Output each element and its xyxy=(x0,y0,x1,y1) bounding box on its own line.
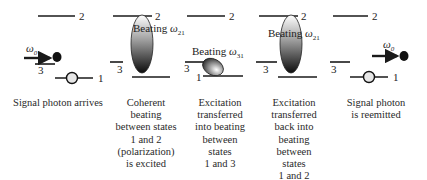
caption-coherent-beating: Coherent beating between states 1 and 2 … xyxy=(110,97,182,170)
level-3-label: 3 xyxy=(263,63,269,75)
panel-photon-reemitted: 2 ω0 3 1 xyxy=(330,10,409,83)
caption-line: states xyxy=(188,146,252,158)
coherence-ellipse-icon xyxy=(280,15,302,73)
photon-dot-icon xyxy=(400,51,409,61)
panel-transfer-back-12: 2 Beating ω21 3 xyxy=(256,10,320,77)
caption-line: is reemitted xyxy=(336,109,416,121)
beating-label: Beating ω31 xyxy=(192,45,244,60)
level-1-label: 1 xyxy=(196,71,202,83)
panel-photon-arrives: 2 ω0 3 1 xyxy=(24,10,104,84)
caption-line: between states xyxy=(110,121,182,133)
photon-frequency-label: ω0 xyxy=(383,38,395,53)
caption-line: 1 and 2 xyxy=(262,170,326,180)
panel-transfer-13: 2 Beating ω31 3 1 xyxy=(184,10,244,83)
level-3-label: 3 xyxy=(331,63,337,75)
caption-line: Excitation xyxy=(262,97,326,109)
caption-line: transferred xyxy=(262,109,326,121)
caption-transfer-back-12: Excitation transferred back into beating… xyxy=(262,97,326,180)
caption-line: is excited xyxy=(110,158,182,170)
caption-line: beating xyxy=(262,134,326,146)
caption-line: between xyxy=(188,134,252,146)
panel-coherent-beating: 2 Beating ω21 3 xyxy=(110,10,185,77)
level-3-label: 3 xyxy=(38,64,44,76)
caption-line: Signal photon arrives xyxy=(6,97,110,109)
caption-line: states xyxy=(262,158,326,170)
caption-line: 1 and 2 xyxy=(110,134,182,146)
level-3-label: 3 xyxy=(184,62,190,74)
level-2-label: 2 xyxy=(79,10,85,22)
caption-line: Excitation xyxy=(188,97,252,109)
level-2-label: 2 xyxy=(155,10,161,22)
level-2-label: 2 xyxy=(229,10,235,22)
caption-photon-arrives: Signal photon arrives xyxy=(6,97,110,109)
caption-photon-reemitted: Signal photon is reemitted xyxy=(336,97,416,121)
caption-line: into beating xyxy=(188,121,252,133)
level-2-label: 2 xyxy=(301,10,307,22)
caption-line: Signal photon xyxy=(336,97,416,109)
caption-line: transferred xyxy=(188,109,252,121)
level-2-label: 2 xyxy=(372,10,378,22)
caption-line: (polarization) xyxy=(110,146,182,158)
caption-line: Coherent xyxy=(110,97,182,109)
caption-line: between xyxy=(262,146,326,158)
caption-transfer-13: Excitation transferred into beating betw… xyxy=(188,97,252,170)
level-1-label: 1 xyxy=(98,72,104,84)
caption-line: 1 and 3 xyxy=(188,158,252,170)
caption-line: back into xyxy=(262,121,326,133)
level-3-label: 3 xyxy=(117,63,123,75)
ground-state-atom-icon xyxy=(67,73,78,84)
photon-frequency-label: ω0 xyxy=(26,42,38,57)
photon-dot-icon xyxy=(53,52,62,62)
level-1-label: 1 xyxy=(393,71,399,83)
ground-state-atom-icon xyxy=(364,72,375,83)
caption-line: beating xyxy=(110,109,182,121)
